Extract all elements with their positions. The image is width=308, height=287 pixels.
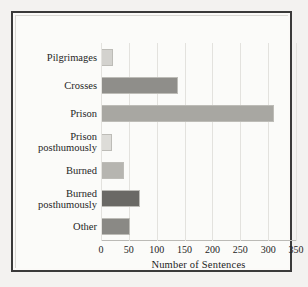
y-axis-label: Prison bbox=[70, 108, 97, 119]
gridline bbox=[129, 43, 130, 241]
gridline bbox=[296, 43, 297, 241]
x-axis-line bbox=[101, 240, 296, 241]
x-tick-label: 350 bbox=[289, 244, 304, 255]
bar bbox=[102, 190, 140, 207]
gridline bbox=[185, 43, 186, 241]
x-tick-label: 200 bbox=[205, 244, 220, 255]
x-tick-label: 250 bbox=[233, 244, 248, 255]
bar bbox=[102, 162, 124, 179]
bar bbox=[102, 218, 130, 235]
x-axis-tick-labels: 050100150200250300350 bbox=[101, 244, 296, 258]
y-axis-label: Prison posthumously bbox=[38, 131, 97, 153]
bar bbox=[102, 134, 112, 151]
chart-frame: PilgrimagesCrossesPrisonPrison posthumou… bbox=[11, 11, 292, 272]
y-axis-label: Burned bbox=[66, 165, 97, 176]
x-tick-label: 150 bbox=[177, 244, 192, 255]
plot-area bbox=[101, 43, 296, 241]
y-axis-category-labels: PilgrimagesCrossesPrisonPrison posthumou… bbox=[27, 43, 97, 241]
bar bbox=[102, 49, 113, 66]
x-tick-label: 0 bbox=[99, 244, 104, 255]
y-axis-label: Crosses bbox=[64, 80, 97, 91]
gridline bbox=[268, 43, 269, 241]
y-axis-label: Pilgrimages bbox=[47, 52, 97, 63]
y-axis-label: Burned posthumously bbox=[38, 188, 97, 210]
x-tick-label: 50 bbox=[124, 244, 134, 255]
x-tick-label: 100 bbox=[149, 244, 164, 255]
chart-figure: PilgrimagesCrossesPrisonPrison posthumou… bbox=[0, 0, 308, 287]
x-axis-title: Number of Sentences bbox=[101, 259, 296, 270]
bar bbox=[102, 77, 178, 94]
gridline bbox=[240, 43, 241, 241]
bar bbox=[102, 105, 274, 122]
x-tick-label: 300 bbox=[261, 244, 276, 255]
y-axis-label: Other bbox=[73, 221, 97, 232]
gridline bbox=[212, 43, 213, 241]
gridline bbox=[157, 43, 158, 241]
